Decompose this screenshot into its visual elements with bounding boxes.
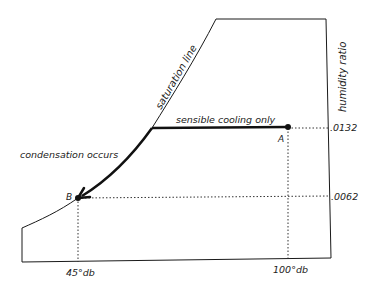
dry-bulb-b-value: 45°db — [66, 267, 95, 278]
psychrometric-chart: saturation line humidity ratio sensible … — [0, 0, 372, 288]
humidity-ratio-a-value: .0132 — [330, 122, 357, 133]
saturation-line-label: saturation line — [153, 43, 199, 111]
condensation-path — [82, 128, 152, 196]
point-b-label: B — [66, 192, 72, 202]
sensible-cooling-line — [152, 127, 288, 128]
chart-outline — [22, 19, 331, 262]
humidity-ratio-label: humidity ratio — [337, 42, 348, 112]
point-b — [75, 195, 81, 201]
guide-b-horizontal — [78, 196, 330, 198]
dry-bulb-a-value: 100°db — [273, 264, 308, 275]
condensation-label: condensation occurs — [20, 149, 118, 160]
point-a — [285, 124, 291, 130]
point-a-label: A — [277, 134, 284, 144]
sensible-cooling-label: sensible cooling only — [176, 114, 276, 125]
humidity-ratio-b-value: .0062 — [331, 191, 358, 202]
